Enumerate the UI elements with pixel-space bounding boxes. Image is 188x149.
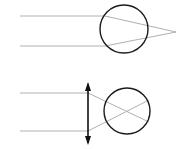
bottom-lower-crossing-ray xyxy=(88,100,149,131)
top-panel xyxy=(20,5,176,53)
bottom-panel xyxy=(20,82,150,145)
ray-diagram-figure xyxy=(0,0,188,149)
aperture-arrow-head-down xyxy=(85,136,91,145)
top-upper-refracted-ray xyxy=(105,16,176,32)
ray-diagram-canvas xyxy=(0,0,188,149)
top-lens-circle xyxy=(100,5,148,53)
aperture-arrow-head-up xyxy=(85,82,91,91)
bottom-upper-crossing-ray xyxy=(88,93,149,122)
top-lower-refracted-ray xyxy=(105,32,176,46)
